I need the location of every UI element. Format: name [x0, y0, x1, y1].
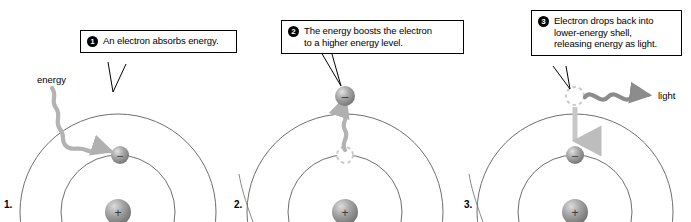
panel-number-1: 1. [4, 199, 12, 210]
svg-text:–: – [342, 90, 349, 104]
callout-1-text: An electron absorbs energy. [103, 35, 229, 47]
step-badge-2: 2 [288, 26, 299, 37]
callout-3-line-3: releasing energy as light. [554, 38, 674, 50]
panel-3-graphics: + – [477, 87, 673, 222]
panel-divider-2 [469, 174, 483, 222]
panel-1-graphics: + – [20, 88, 216, 222]
callout-3-text: Electron drops back into lower-energy sh… [554, 15, 674, 50]
electron-energy-diagram: + – + – + [0, 0, 691, 222]
callout-3-line-2: lower-energy shell, [554, 27, 674, 39]
svg-text:+: + [114, 206, 121, 220]
callout-box-2: 2 The energy boosts the electron to a hi… [281, 20, 464, 54]
step-badge-3: 3 [538, 16, 549, 27]
callout-2-line-1: The energy boosts the electron [304, 25, 456, 37]
step-badge-1: 1 [87, 36, 98, 47]
callout-2-line-2: to a higher energy level. [304, 37, 456, 49]
energy-label: energy [37, 74, 66, 85]
callout-1-line-1: An electron absorbs energy. [103, 35, 229, 47]
svg-text:–: – [572, 149, 579, 161]
svg-text:–: – [117, 149, 124, 161]
panel-2-graphics: + – [247, 86, 443, 222]
callout-box-3: 3 Electron drops back into lower-energy … [531, 10, 682, 56]
panel-divider-1 [239, 174, 253, 222]
svg-text:+: + [341, 206, 348, 220]
callout-3-leader [553, 66, 570, 89]
panel-number-2: 2. [234, 199, 242, 210]
panel-number-3: 3. [464, 199, 472, 210]
light-label: light [658, 90, 675, 101]
callout-3-line-1: Electron drops back into [554, 15, 674, 27]
svg-text:+: + [571, 206, 578, 220]
callout-1-leader [108, 62, 126, 92]
callout-box-1: 1 An electron absorbs energy. [80, 30, 237, 53]
callout-2-text: The energy boosts the electron to a high… [304, 25, 456, 48]
